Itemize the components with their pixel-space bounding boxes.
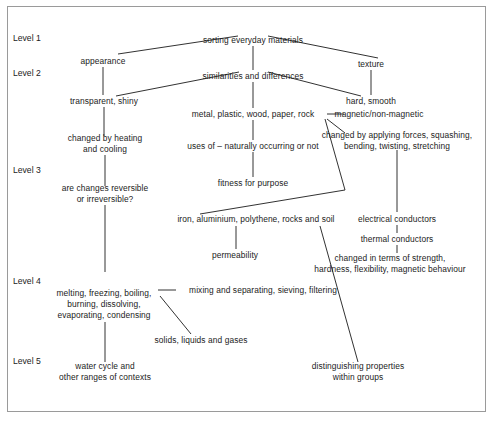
node-solids-liquids-and-gases: solids, liquids and gases — [155, 335, 248, 346]
edge-vertex-to-iron — [200, 190, 345, 214]
level-1-label: Level 1 — [13, 33, 41, 44]
node-metal-plastic-wood-paper-rock: metal, plastic, wood, paper, rock — [192, 109, 314, 120]
node-distinguishing-properties-within-groups: distinguishing properties within groups — [312, 361, 404, 383]
node-iron-aluminium-polythene-rocks-soil: iron, aluminium, polythene, rocks and so… — [177, 214, 334, 225]
node-hard-smooth: hard, smooth — [346, 96, 396, 107]
node-electrical-conductors: electrical conductors — [358, 214, 436, 225]
node-water-cycle-and-other-ranges-of-contexts: water cycle and other ranges of contexts — [59, 361, 151, 383]
node-permeability: permeability — [212, 250, 258, 261]
node-changed-by-applying-forces: changed by applying forces, squashing, b… — [322, 130, 472, 152]
node-fitness-for-purpose: fitness for purpose — [218, 178, 289, 189]
node-uses-of-naturally-occurring-or-not: uses of – naturally occurring or not — [187, 141, 319, 152]
level-5-label: Level 5 — [13, 356, 41, 367]
level-2-label: Level 2 — [13, 68, 41, 79]
level-3-label: Level 3 — [13, 165, 41, 176]
node-sorting-everyday-materials: sorting everyday materials — [203, 35, 303, 46]
concept-map-diagram: Level 1Level 2Level 3Level 4Level 5 sort… — [0, 0, 494, 421]
node-changed-by-heating-and-cooling: changed by heating and cooling — [68, 133, 143, 155]
edge-melting-to-solids — [160, 296, 191, 334]
node-thermal-conductors: thermal conductors — [361, 234, 434, 245]
node-appearance: appearance — [80, 56, 125, 67]
node-mixing-and-separating-sieving-filtering: mixing and separating, sieving, filterin… — [189, 285, 337, 296]
level-4-label: Level 4 — [13, 276, 41, 287]
node-changed-in-terms-of-strength: changed in terms of strength, hardness, … — [314, 253, 465, 275]
diagram-connector-layer — [0, 0, 494, 421]
node-texture: texture — [358, 59, 384, 70]
node-magnetic-non-magnetic: magnetic/non-magnetic — [335, 109, 424, 120]
node-similarities-and-differences: similarities and differences — [203, 71, 304, 82]
node-melting-freezing-boiling: melting, freezing, boiling, burning, dis… — [57, 288, 152, 321]
node-transparent-shiny: transparent, shiny — [70, 96, 138, 107]
node-are-changes-reversible-or-irreversible: are changes reversible or irreversible? — [62, 183, 149, 205]
